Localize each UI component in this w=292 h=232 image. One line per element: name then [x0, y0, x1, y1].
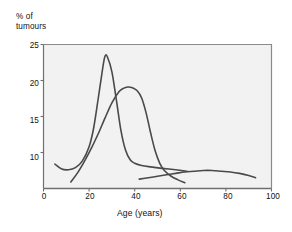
- chart-figure: % oftumours 25 20 15 10 0 20 40 60 80 10…: [0, 0, 292, 232]
- chart-plot-area: [0, 0, 292, 232]
